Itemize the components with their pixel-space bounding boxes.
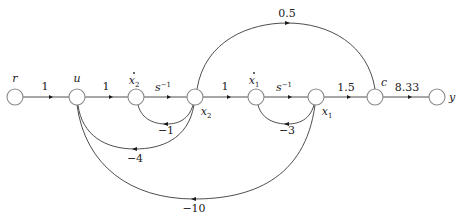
gain-c-y: 8.33 (395, 81, 420, 94)
arrow-x2-u-icon (132, 147, 137, 151)
gain-x2-c: 0.5 (278, 7, 296, 20)
arrow-x1dot-x1-icon (288, 95, 292, 99)
gain-x1-c: 1.5 (337, 81, 355, 94)
label-r: r (12, 72, 18, 85)
gain-r-u: 1 (42, 80, 49, 93)
node-u (69, 89, 85, 105)
label-u: u (73, 72, 80, 85)
signal-flow-graph: r u x2 x2 x1 x1 c y 1 1 s−1 1 s−1 1.5 8.… (0, 0, 459, 219)
branch-x1-x1dot-loop (258, 105, 314, 124)
arrow-x2-c-icon (285, 21, 290, 25)
gain-x2-x1dot: 1 (222, 80, 229, 93)
node-x1dot (248, 89, 264, 105)
node-x2 (187, 89, 203, 105)
branch-x2-x2dot-loop (138, 105, 193, 124)
gain-u-x2dot: 1 (103, 80, 110, 93)
gain-x1dot-x1: s−1 (276, 81, 292, 94)
arrow-x2-x1dot-icon (227, 95, 231, 99)
gain-x2-u: −4 (127, 152, 143, 165)
node-r (7, 89, 23, 105)
gain-x1-x1dot: −3 (279, 124, 295, 137)
gain-x2dot-x2: s−1 (155, 81, 171, 94)
arrow-c-y-icon (408, 95, 412, 99)
branch-x2-u-arc (78, 105, 194, 149)
node-c (367, 89, 383, 105)
arrow-x1-u-icon (191, 197, 196, 201)
arrow-u-x2dot-icon (109, 95, 113, 99)
dot-x2dot-icon (133, 72, 135, 74)
label-x2dot: x2 (129, 74, 140, 89)
label-c: c (381, 76, 387, 89)
gain-x2-x2dot: −1 (158, 124, 174, 137)
label-y: y (448, 91, 456, 104)
node-y (429, 89, 445, 105)
arrow-x1-c-icon (347, 95, 351, 99)
node-x1 (308, 89, 324, 105)
arrow-x2dot-x2-icon (167, 95, 171, 99)
label-x2: x2 (201, 105, 212, 120)
branch-x1-u-arc (77, 105, 315, 199)
label-x1: x1 (322, 105, 333, 120)
node-x2dot (128, 89, 144, 105)
arrow-r-u-icon (49, 95, 53, 99)
gain-x1-u: −10 (182, 202, 205, 215)
label-x1dot: x1 (249, 74, 260, 89)
dot-x1dot-icon (253, 72, 255, 74)
